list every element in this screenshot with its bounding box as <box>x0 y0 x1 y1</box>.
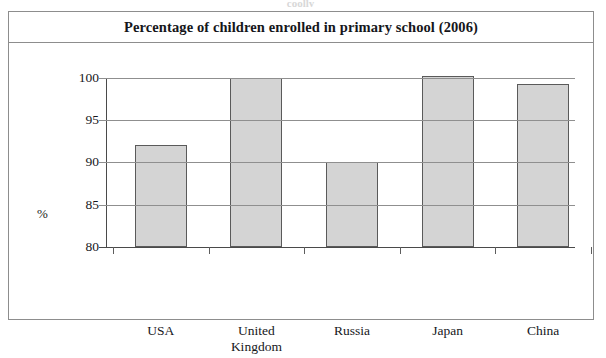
gridline-90 <box>99 162 575 163</box>
x-tick-0 <box>113 247 114 254</box>
x-label-russia: Russia <box>304 323 400 339</box>
x-label-line: USA <box>113 323 209 339</box>
bar-china <box>517 84 569 247</box>
x-tick-2 <box>304 247 305 254</box>
gridline-85 <box>99 205 575 206</box>
x-tick-4 <box>495 247 496 254</box>
gridline-100 <box>99 78 575 79</box>
y-tick-label-95: 95 <box>65 112 99 128</box>
x-label-china: China <box>495 323 591 339</box>
x-label-united-kingdom: UnitedKingdom <box>209 323 305 355</box>
y-tick-label-90: 90 <box>65 154 99 170</box>
chart-title-cell: Percentage of children enrolled in prima… <box>9 12 593 43</box>
x-label-line: China <box>495 323 591 339</box>
x-label-line: Russia <box>304 323 400 339</box>
y-tick-label-85: 85 <box>65 197 99 213</box>
x-label-line: Kingdom <box>209 339 305 355</box>
x-label-line: Japan <box>400 323 496 339</box>
gridline-95 <box>99 120 575 121</box>
plot-area: % 80859095100 USAUnitedKingdomRussiaJapa… <box>9 43 593 319</box>
grid-box <box>99 43 575 319</box>
x-label-usa: USA <box>113 323 209 339</box>
x-axis-label-group: USAUnitedKingdomRussiaJapanChina <box>99 319 575 358</box>
figure-frame: Percentage of children enrolled in prima… <box>8 11 594 320</box>
bar-usa <box>135 145 187 247</box>
y-tick-label-80: 80 <box>65 239 99 255</box>
gridline-80 <box>99 247 575 248</box>
y-tick-label-group: 80859095100 <box>43 43 99 319</box>
scan-top-text-sliver: coolly <box>243 0 358 7</box>
x-label-japan: Japan <box>400 323 496 339</box>
x-tick-end <box>591 247 592 254</box>
y-tick-label-100: 100 <box>65 70 99 86</box>
page-title: Percentage of children enrolled in prima… <box>124 19 478 36</box>
x-label-line: United <box>209 323 305 339</box>
x-tick-3 <box>400 247 401 254</box>
x-tick-1 <box>209 247 210 254</box>
bars-layer <box>99 43 575 319</box>
